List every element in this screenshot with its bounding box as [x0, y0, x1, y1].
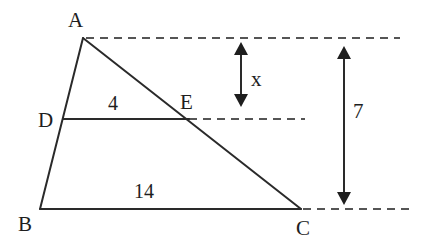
- dimension-label-x: x: [251, 67, 262, 91]
- point-label-C: C: [296, 216, 310, 240]
- height-dimension-arrow: [337, 46, 351, 205]
- point-label-A: A: [68, 8, 84, 32]
- arrowhead-down-icon: [337, 192, 351, 205]
- x-dimension-arrow: [234, 42, 248, 107]
- arrowhead-down-icon: [234, 94, 248, 107]
- length-label-DE: 4: [108, 92, 118, 114]
- dimension-label-height: 7: [353, 99, 364, 123]
- length-label-BC: 14: [134, 180, 154, 202]
- geometry-diagram: A D E B C 4 14 x 7: [0, 0, 427, 245]
- diagram-canvas: A D E B C 4 14 x 7: [0, 0, 427, 245]
- point-label-E: E: [180, 90, 193, 114]
- side-AC: [83, 38, 301, 209]
- arrowhead-up-icon: [337, 46, 351, 59]
- point-label-B: B: [18, 212, 32, 236]
- point-label-D: D: [38, 108, 53, 132]
- arrowhead-up-icon: [234, 42, 248, 55]
